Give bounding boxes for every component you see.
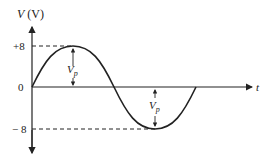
tick-pos-8: +8 xyxy=(13,41,25,52)
tick-zero: 0 xyxy=(18,82,24,93)
vp-main: V xyxy=(149,99,156,111)
sine-wave-diagram xyxy=(0,0,272,159)
y-axis-label-unit: (V) xyxy=(27,7,44,21)
vp-label-lower: Vp xyxy=(149,100,160,114)
y-axis-label-var: V xyxy=(17,7,24,21)
vp-sub: p xyxy=(74,69,78,78)
t-axis-label: t xyxy=(256,82,259,93)
vp-label-upper: Vp xyxy=(67,64,78,78)
y-axis-label: V (V) xyxy=(17,8,44,20)
tick-neg-8: − 8 xyxy=(12,124,26,135)
vp-sub: p xyxy=(156,105,160,114)
vp-main: V xyxy=(67,63,74,75)
